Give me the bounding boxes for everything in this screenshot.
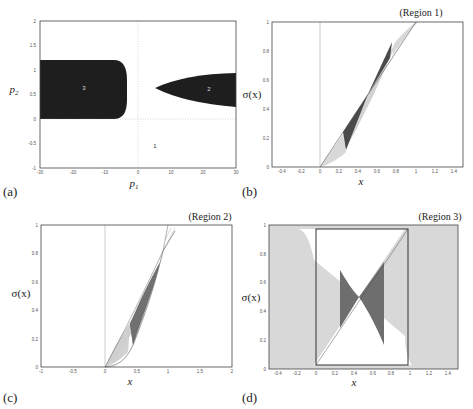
panel-c-letter: (c) [3,390,17,405]
svg-text:0.6: 0.6 [260,280,267,285]
panel-d: -0.4 -0.2 0 0.2 0.4 0.6 0.8 1 1.2 1.4 0 … [242,211,462,405]
panel-c: -1 -0.5 0 0.5 1 1.5 2 0 0.2 0.4 0.6 0.8 … [3,211,234,405]
svg-text:0: 0 [263,367,266,372]
panel-b-frame [272,22,463,167]
region-2-area [155,73,236,107]
svg-text:0.4: 0.4 [263,107,270,112]
svg-text:0.6: 0.6 [370,371,377,376]
svg-text:1.5: 1.5 [30,43,37,48]
svg-text:0.2: 0.2 [263,136,270,141]
svg-text:0: 0 [315,371,318,376]
svg-text:2: 2 [231,369,234,374]
panel-c-xticks: -1 -0.5 0 0.5 1 1.5 2 [39,369,234,374]
panel-d-xticks: -0.4 -0.2 0 0.2 0.4 0.6 0.8 1 1.2 1.4 [274,371,452,376]
panel-c-ylabel: σ(x) [12,287,31,300]
panel-c-frame [41,225,232,367]
panel-b-dark-lower [343,94,368,150]
panel-a: 3 2 1 -30 -20 -10 0 10 20 30 2 1.5 1 0.5… [3,19,239,199]
svg-text:0.2: 0.2 [332,371,339,376]
svg-text:30: 30 [233,170,239,175]
svg-text:-10: -10 [102,170,109,175]
svg-text:-20: -20 [70,170,77,175]
svg-text:1.4: 1.4 [451,169,458,174]
panel-c-dark-band-2 [130,262,160,345]
svg-text:0.5: 0.5 [30,92,37,97]
svg-text:-0.2: -0.2 [297,169,305,174]
svg-text:0.8: 0.8 [388,371,395,376]
svg-text:-0.4: -0.4 [274,371,282,376]
svg-text:10: 10 [168,170,174,175]
panel-b-dark-upper [368,42,392,94]
panel-b: -0.4 -0.2 0 0.2 0.4 0.6 0.8 1 1.2 1.4 0 … [242,7,463,199]
svg-text:0.6: 0.6 [263,78,270,83]
region-1-label: 1 [153,143,157,149]
svg-text:-0.5: -0.5 [69,369,77,374]
svg-text:-0.4: -0.4 [278,169,286,174]
svg-text:0.4: 0.4 [32,308,39,313]
svg-text:1.2: 1.2 [432,169,439,174]
panel-b-letter: (b) [242,184,257,199]
panel-a-letter: (a) [3,184,17,199]
svg-text:0.6: 0.6 [32,280,39,285]
svg-text:-1: -1 [39,369,43,374]
svg-text:0.8: 0.8 [263,49,270,54]
svg-text:0: 0 [104,369,107,374]
panel-c-upper-curve [105,225,168,367]
svg-text:-30: -30 [37,170,44,175]
panel-b-title: (Region 1) [399,7,442,19]
svg-text:0.4: 0.4 [355,169,362,174]
svg-text:20: 20 [200,170,206,175]
svg-text:0: 0 [319,169,322,174]
svg-text:0: 0 [33,117,36,122]
svg-text:1: 1 [167,369,170,374]
svg-text:1.5: 1.5 [197,369,204,374]
svg-text:0.2: 0.2 [32,337,39,342]
panel-b-light-lower [320,134,346,167]
panel-a-yticks: 2 1.5 1 0.5 0 -0.5 -1 [28,19,36,171]
svg-text:1: 1 [33,68,36,73]
panel-a-ylabel: p2 [9,83,20,97]
svg-text:2: 2 [33,19,36,24]
svg-text:1.2: 1.2 [426,371,433,376]
svg-text:0.4: 0.4 [260,309,267,314]
panel-b-ylabel: σ(x) [243,88,262,101]
panel-a-xticks: -30 -20 -10 0 10 20 30 [37,170,239,175]
svg-text:0.8: 0.8 [260,252,267,257]
panel-c-title: (Region 2) [188,211,231,223]
panel-b-xticks: -0.4 -0.2 0 0.2 0.4 0.6 0.8 1 1.2 1.4 [278,169,458,174]
panel-c-xlabel: x [127,375,133,387]
svg-text:-0.5: -0.5 [28,141,36,146]
panel-d-letter: (d) [242,390,257,405]
panel-d-ylabel: σ(x) [242,291,261,304]
svg-text:0: 0 [137,170,140,175]
panel-d-yticks: 0 0.2 0.4 0.6 0.8 1 [260,223,267,372]
svg-text:0: 0 [266,165,269,170]
svg-text:1: 1 [263,223,266,228]
panel-c-yticks: 0 0.2 0.4 0.6 0.8 1 [32,223,39,370]
svg-text:0.5: 0.5 [134,369,141,374]
panel-d-title: (Region 3) [418,211,461,223]
svg-text:0.8: 0.8 [32,251,39,256]
panel-d-xlabel: x [351,376,357,388]
svg-text:1: 1 [409,371,412,376]
panel-a-xlabel: p1 [129,177,139,191]
svg-text:0.2: 0.2 [260,338,267,343]
svg-text:1.4: 1.4 [445,371,452,376]
svg-text:0.2: 0.2 [336,169,343,174]
panel-c-wisps [163,228,175,251]
figure-canvas: 3 2 1 -30 -20 -10 0 10 20 30 2 1.5 1 0.5… [0,0,473,409]
svg-text:-0.2: -0.2 [293,371,301,376]
panel-b-yticks: 0 0.2 0.4 0.6 0.8 1 [263,20,270,170]
svg-text:-1: -1 [32,166,36,171]
svg-text:0.6: 0.6 [374,169,381,174]
panel-b-line [320,22,416,167]
panel-b-xlabel: x [358,175,364,187]
svg-text:0.8: 0.8 [393,169,400,174]
svg-text:1: 1 [415,169,418,174]
svg-text:1: 1 [35,223,38,228]
svg-text:1: 1 [266,20,269,25]
